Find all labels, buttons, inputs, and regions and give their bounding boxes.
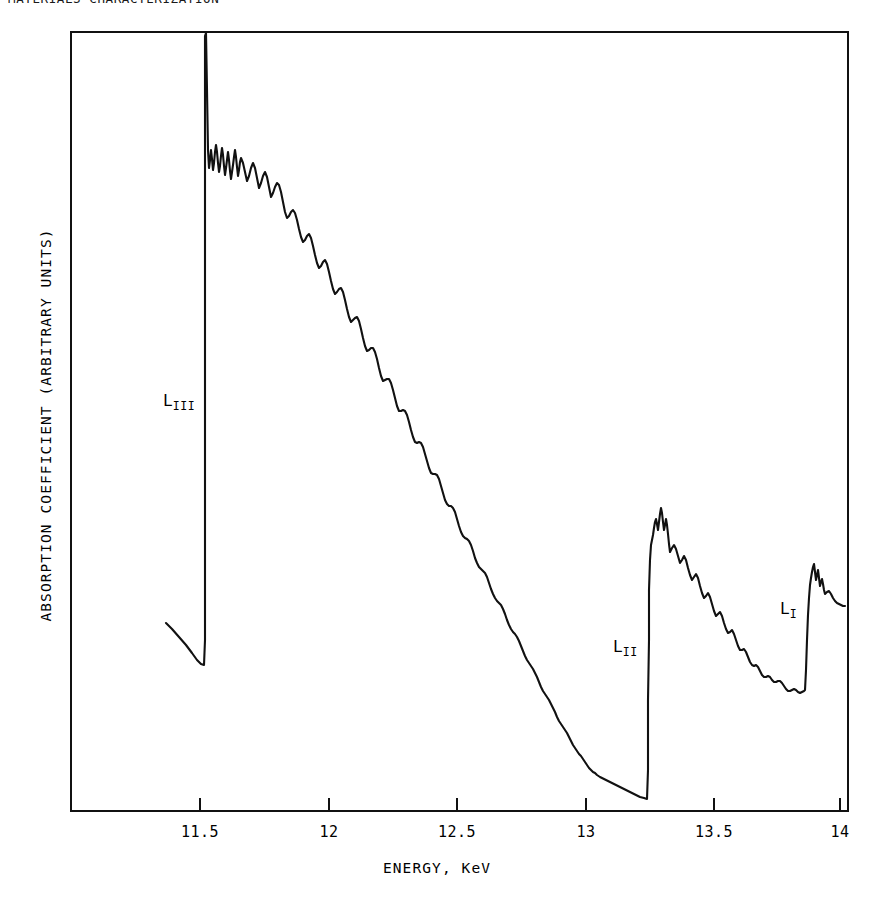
figure-page: MATERIALS CHARACTERIZATION ABSORPTION CO… bbox=[0, 0, 874, 899]
l2-edge-label: LII bbox=[613, 639, 638, 658]
l3-edge-label: LIII bbox=[163, 393, 195, 412]
l1-edge-label-subscript: I bbox=[790, 607, 798, 621]
x-tick-label-12.5: 12.5 bbox=[438, 823, 476, 841]
plot-frame bbox=[70, 31, 849, 812]
l3-edge-label-subscript: III bbox=[173, 399, 196, 413]
x-tick-label-11.5: 11.5 bbox=[181, 823, 219, 841]
x-axis-title: ENERGY, KeV bbox=[0, 860, 874, 876]
l2-edge-label-base: L bbox=[613, 637, 623, 656]
x-tick-label-14: 14 bbox=[830, 823, 849, 841]
l1-edge-label-base: L bbox=[780, 599, 790, 618]
l1-edge-label: LI bbox=[780, 601, 797, 620]
y-axis-title: ABSORPTION COEFFICIENT (ARBITRARY UNITS) bbox=[38, 165, 54, 685]
x-tick-label-13: 13 bbox=[576, 823, 595, 841]
top-caption-text: MATERIALS CHARACTERIZATION bbox=[8, 0, 428, 7]
l2-edge-label-subscript: II bbox=[623, 645, 638, 659]
x-tick-label-13.5: 13.5 bbox=[695, 823, 733, 841]
l3-edge-label-base: L bbox=[163, 391, 173, 410]
x-tick-label-12: 12 bbox=[319, 823, 338, 841]
